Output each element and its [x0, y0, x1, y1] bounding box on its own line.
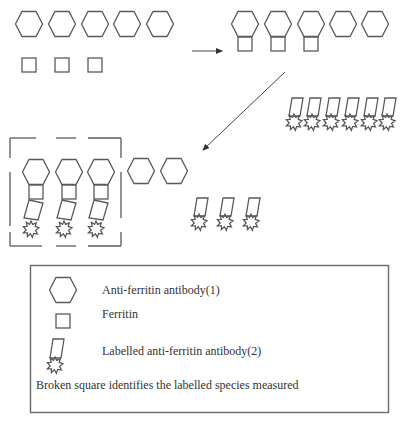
labelled-antibody-icon — [217, 198, 234, 230]
antibody-1-hexagon-icon — [49, 12, 76, 37]
labelled-antibody-icon — [323, 98, 340, 130]
immunoassay-diagram: Anti-ferritin antibody(1) Ferritin Label… — [0, 0, 405, 427]
ferritin-square-icon — [55, 58, 69, 72]
legend: Anti-ferritin antibody(1) Ferritin Label… — [31, 266, 389, 413]
legend-label-ferritin: Ferritin — [102, 307, 138, 321]
labelled-antibody-icon — [304, 98, 321, 130]
step-1-group — [16, 12, 174, 73]
antibody-1-hexagon-icon — [232, 12, 259, 37]
ferritin-square-icon — [22, 58, 36, 72]
step-2-group — [232, 12, 389, 52]
ferritin-square-icon — [238, 37, 252, 51]
ferritin-square-icon — [88, 58, 102, 72]
labelled-antibody-icon — [191, 198, 208, 230]
legend-label-labelled-antibody-2: Labelled anti-ferritin antibody(2) — [102, 344, 261, 358]
sandwich-complexes — [23, 159, 188, 238]
labelled-antibody-icon — [342, 98, 359, 130]
unbound-labelled-antibodies — [191, 198, 260, 230]
antibody-1-hexagon-icon — [128, 159, 155, 184]
legend-note: Broken square identifies the labelled sp… — [36, 378, 299, 392]
antibody-1-hexagon-icon — [114, 12, 141, 37]
ferritin-square-icon — [271, 37, 285, 51]
antibody-1-hexagon-icon — [161, 159, 188, 184]
labelled-antibody-icon — [286, 98, 303, 130]
antibody-1-hexagon-icon — [16, 12, 43, 37]
antibody-1-hexagon-icon — [147, 12, 174, 37]
sandwich-complex — [56, 160, 83, 238]
legend-square-icon — [56, 314, 70, 328]
antibody-1-hexagon-icon — [265, 12, 292, 37]
legend-labelled-antibody-icon — [47, 339, 64, 373]
antibody-1-hexagon-icon — [82, 12, 109, 37]
ferritin-square-icon — [304, 37, 318, 51]
labelled-antibody-icon — [361, 98, 378, 130]
labelled-antibodies-row — [286, 98, 396, 130]
legend-label-antibody-1: Anti-ferritin antibody(1) — [102, 283, 220, 297]
antibody-1-hexagon-icon — [362, 12, 389, 37]
antibody-1-hexagon-icon — [298, 12, 325, 37]
legend-hexagon-icon — [50, 278, 77, 303]
antibody-1-hexagon-icon — [330, 12, 357, 37]
sandwich-complex — [88, 160, 115, 238]
sandwich-complex — [23, 160, 50, 238]
labelled-antibody-icon — [243, 198, 260, 230]
arrow-diagonal-icon — [203, 72, 285, 150]
labelled-antibody-icon — [379, 98, 396, 130]
